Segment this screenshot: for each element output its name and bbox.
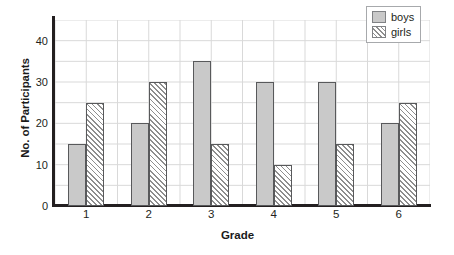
legend-item-boys: boys (372, 11, 414, 23)
legend-item-girls: girls (372, 26, 414, 38)
bar-boys-grade-1 (68, 144, 86, 206)
legend-swatch-girls-icon (372, 26, 386, 38)
bars-layer (55, 20, 430, 206)
x-axis-tick-labels: 123456 (55, 208, 430, 226)
bar-girls-grade-2 (149, 82, 167, 206)
y-tick-label: 20 (22, 117, 48, 129)
y-tick-label: 0 (22, 200, 48, 212)
x-tick-label: 6 (379, 208, 419, 220)
legend-label-girls: girls (391, 26, 411, 38)
y-axis-tick-labels: 010203040 (20, 20, 48, 206)
x-tick-label: 1 (66, 208, 106, 220)
bar-girls-grade-3 (211, 144, 229, 206)
legend: boys girls (366, 6, 421, 43)
bar-girls-grade-6 (399, 103, 417, 206)
bar-boys-grade-4 (256, 82, 274, 206)
bar-chart: No. of Participants 010203040 123456 Gra… (0, 0, 454, 255)
y-tick-label: 40 (22, 35, 48, 47)
bar-boys-grade-6 (381, 123, 399, 206)
bar-girls-grade-5 (336, 144, 354, 206)
x-axis-title: Grade (45, 229, 430, 241)
bar-girls-grade-4 (274, 165, 292, 206)
x-tick-label: 2 (129, 208, 169, 220)
x-tick-label: 3 (191, 208, 231, 220)
y-tick-label: 30 (22, 76, 48, 88)
bar-boys-grade-3 (193, 61, 211, 206)
bar-boys-grade-2 (131, 123, 149, 206)
bar-girls-grade-1 (86, 103, 104, 206)
bar-boys-grade-5 (318, 82, 336, 206)
x-tick-label: 4 (254, 208, 294, 220)
legend-swatch-boys-icon (372, 11, 386, 23)
x-tick-label: 5 (316, 208, 356, 220)
y-tick-label: 10 (22, 159, 48, 171)
legend-label-boys: boys (391, 11, 414, 23)
